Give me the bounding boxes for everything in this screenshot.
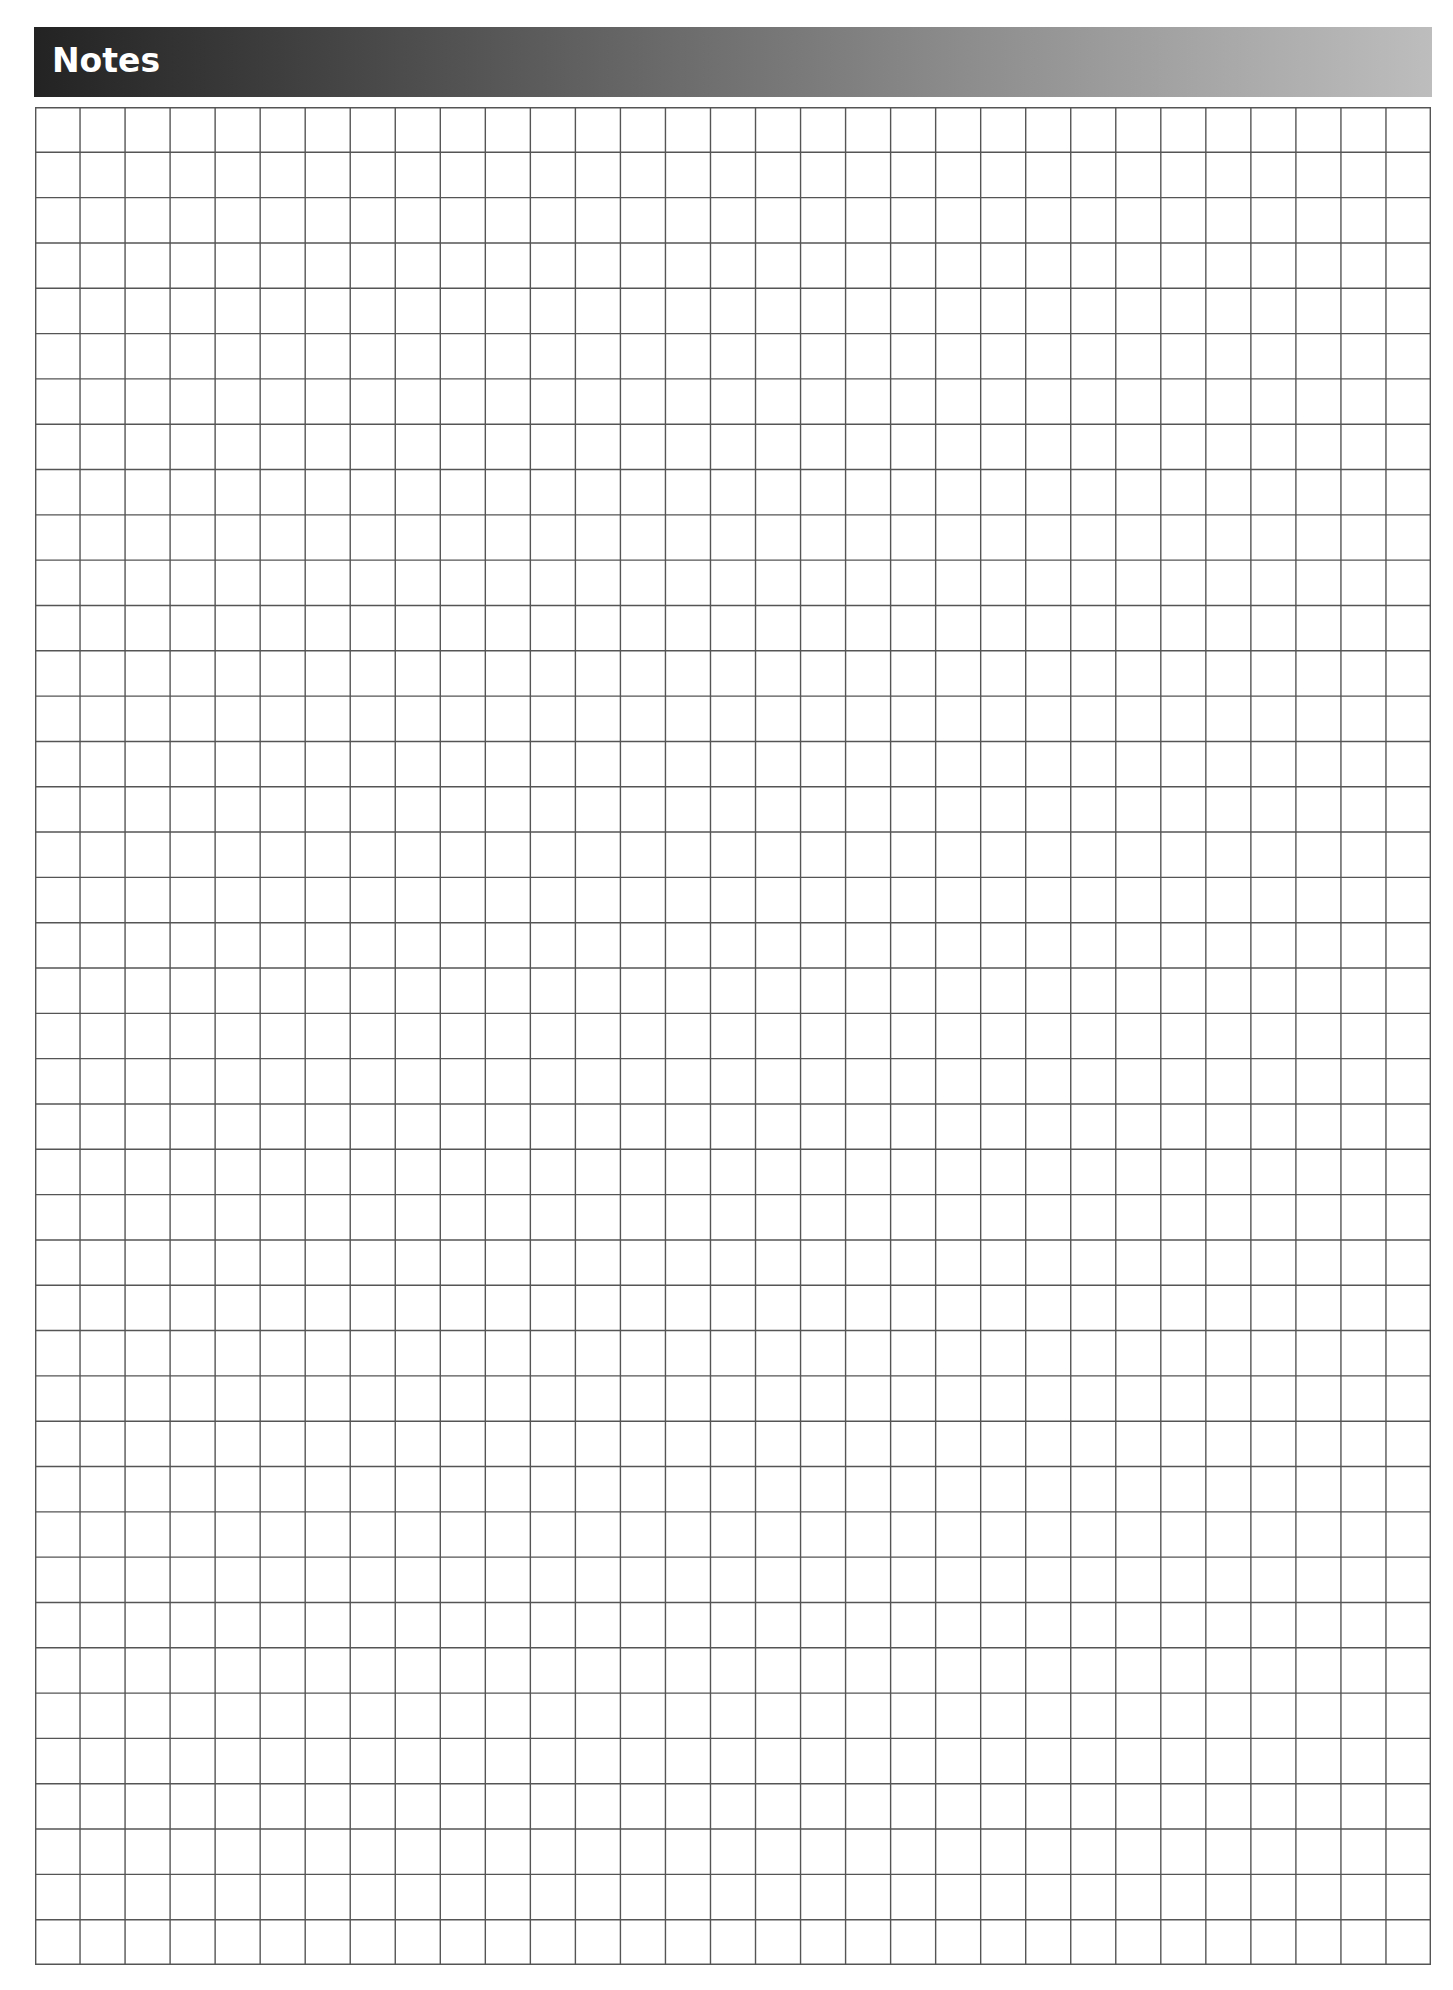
graph-paper-grid <box>35 107 1431 1965</box>
notes-grid <box>35 107 1431 1965</box>
notes-header-bar: Notes <box>34 27 1432 97</box>
page-title: Notes <box>52 39 160 83</box>
